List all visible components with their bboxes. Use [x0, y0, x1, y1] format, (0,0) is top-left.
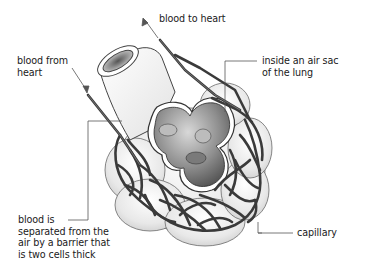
- label-blood-to-heart: blood to heart: [159, 13, 225, 25]
- arrow-blood-to-heart-icon: [142, 18, 158, 38]
- arrow-blood-from-heart-icon: [72, 68, 89, 93]
- label-blood-from-heart: blood from heart: [17, 55, 68, 78]
- label-capillary: capillary: [297, 227, 337, 239]
- label-barrier: blood is separated from the air by a bar…: [18, 214, 110, 260]
- label-inside-air-sac: inside an air sac of the lung: [262, 55, 338, 78]
